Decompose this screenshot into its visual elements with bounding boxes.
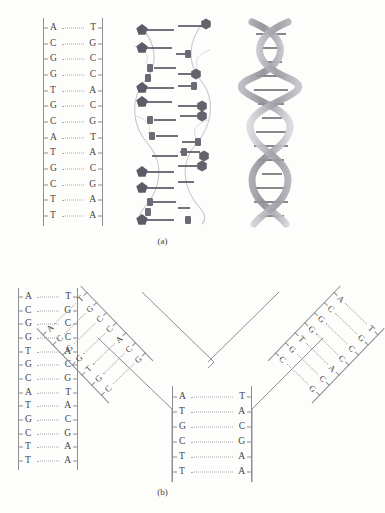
base-letter-left: C bbox=[25, 306, 31, 316]
base-letter-right: A bbox=[89, 196, 96, 206]
rung-tick-left bbox=[172, 396, 177, 397]
rung-tick-right bbox=[98, 200, 103, 201]
rung-tick-right bbox=[326, 382, 330, 386]
rung-tick-right bbox=[142, 352, 146, 356]
rung-tick-right bbox=[98, 137, 103, 138]
base-letter-left: G bbox=[50, 102, 57, 112]
hydrogen-bond bbox=[62, 43, 84, 44]
rung-tick-left bbox=[52, 341, 56, 345]
rung-tick-left bbox=[172, 426, 177, 427]
base-pair-rung: GC bbox=[43, 161, 103, 177]
rung-tick-left bbox=[72, 362, 76, 366]
base-pair-rung: AT bbox=[43, 20, 103, 36]
base-pair-rung: TA bbox=[18, 453, 78, 469]
base-pair-rung: GC bbox=[172, 419, 252, 435]
hydrogen-bond bbox=[62, 90, 84, 91]
hydrogen-bond bbox=[62, 106, 84, 107]
base-pair-rung: TA bbox=[43, 208, 103, 224]
base-pair-rung: TA bbox=[43, 83, 103, 99]
base-letter-right: G bbox=[64, 429, 71, 439]
rung-tick-left bbox=[18, 337, 23, 338]
base-letter-right: C bbox=[65, 415, 71, 425]
rung-tick-right bbox=[73, 447, 78, 448]
fork-stem-ladder: ATTAGCCGTATA bbox=[172, 386, 252, 482]
rung-tick-left bbox=[172, 441, 177, 442]
hydrogen-bond bbox=[37, 392, 59, 393]
rung-tick-left bbox=[43, 137, 48, 138]
base-letter-right: G bbox=[64, 374, 71, 384]
base-pair-rung: GC bbox=[43, 51, 103, 67]
base-letter-right: A bbox=[64, 456, 71, 466]
base-letter-left: G bbox=[50, 54, 57, 64]
rung-tick-left bbox=[314, 312, 318, 316]
base-letter-left: T bbox=[25, 347, 31, 357]
rung-tick-right bbox=[73, 461, 78, 462]
rung-tick-left bbox=[43, 216, 48, 217]
base-letter-left: G bbox=[50, 70, 57, 80]
rung-tick-right bbox=[98, 169, 103, 170]
rung-tick-right bbox=[98, 216, 103, 217]
base-letter-right: C bbox=[90, 102, 96, 112]
base-letter-left: G bbox=[25, 415, 32, 425]
rung-tick-left bbox=[172, 411, 177, 412]
rung-tick-left bbox=[294, 332, 298, 336]
rung-tick-right bbox=[316, 392, 320, 396]
base-letter-left: G bbox=[50, 164, 57, 174]
hydrogen-bond bbox=[62, 200, 84, 201]
base-pair-rung: GC bbox=[43, 67, 103, 83]
base-pair-rung: TA bbox=[43, 145, 103, 161]
rung-tick-left bbox=[42, 331, 46, 335]
base-letter-left: A bbox=[50, 133, 57, 143]
rung-tick-left bbox=[18, 420, 23, 421]
base-letter-left: G bbox=[25, 333, 32, 343]
hydrogen-bond bbox=[191, 456, 233, 457]
base-pair-rung: AT bbox=[43, 130, 103, 146]
rung-tick-right bbox=[98, 106, 103, 107]
rung-tick-left bbox=[18, 379, 23, 380]
rung-tick-right bbox=[98, 59, 103, 60]
rung-tick-right bbox=[98, 153, 103, 154]
rung-tick-right bbox=[345, 362, 349, 366]
base-letter-left: T bbox=[25, 402, 31, 412]
rung-tick-right bbox=[98, 184, 103, 185]
hydrogen-bond bbox=[37, 433, 59, 434]
hydrogen-bond bbox=[191, 426, 233, 427]
base-letter-left: C bbox=[25, 429, 31, 439]
base-letter-left: A bbox=[179, 392, 186, 402]
base-letter-right: A bbox=[64, 402, 71, 412]
rung-tick-left bbox=[172, 471, 177, 472]
hydrogen-bond bbox=[37, 461, 59, 462]
rung-tick-left bbox=[43, 74, 48, 75]
rung-tick-left bbox=[18, 296, 23, 297]
hydrogen-bond bbox=[62, 216, 84, 217]
rung-tick-right bbox=[98, 74, 103, 75]
dna-base-pair-ladder-a: ATCGGCGCTAGCCGATTAGCCGTATA bbox=[43, 18, 103, 226]
rung-tick-right bbox=[98, 27, 103, 28]
hydrogen-bond bbox=[62, 59, 84, 60]
base-letter-left: G bbox=[25, 319, 32, 329]
rung-tick-left bbox=[43, 106, 48, 107]
rung-tick-right bbox=[113, 322, 117, 326]
hydrogen-bond bbox=[191, 471, 233, 472]
hydrogen-bond bbox=[62, 153, 84, 154]
hydrogen-bond bbox=[191, 411, 233, 412]
base-pair-rung: TA bbox=[172, 464, 252, 480]
hydrogen-bond bbox=[191, 441, 233, 442]
hydrogen-bond bbox=[62, 122, 84, 123]
base-letter-right: G bbox=[89, 117, 96, 127]
base-letter-right: C bbox=[239, 422, 245, 432]
rung-tick-right bbox=[98, 43, 103, 44]
hydrogen-bond bbox=[62, 137, 84, 138]
base-letter-left: A bbox=[25, 292, 32, 302]
rung-tick-left bbox=[18, 447, 23, 448]
rung-tick-left bbox=[43, 184, 48, 185]
base-letter-right: A bbox=[89, 149, 96, 159]
base-pair-rung: GC bbox=[43, 98, 103, 114]
rung-tick-left bbox=[43, 43, 48, 44]
base-pair-rung: CG bbox=[43, 177, 103, 193]
replication-fork: ATCGGCGCTAGCCG ATCGGCGCTAGCCG ATTAGCCGTA… bbox=[96, 276, 325, 484]
rung-tick-left bbox=[43, 59, 48, 60]
hydrogen-bond bbox=[62, 169, 84, 170]
rung-tick-right bbox=[365, 341, 369, 345]
